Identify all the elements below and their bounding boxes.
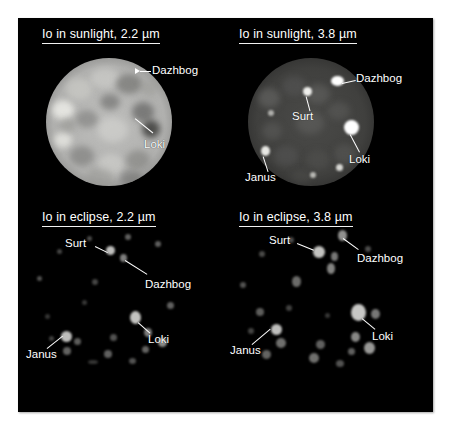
figure-root: Io in sunlight, 2.2 µm: [0, 0, 449, 430]
label-loki-eclipse-38: Loki: [372, 330, 393, 342]
label-loki-sunlight-38: Loki: [349, 153, 370, 165]
hotspot-janus-eclipse-38: [271, 324, 282, 335]
panel-title-eclipse-38: Io in eclipse, 3.8 µm: [239, 210, 353, 227]
panel-eclipse-38: Io in eclipse, 3.8 µm: [226, 208, 433, 412]
label-dazhbog-eclipse-22: Dazhbog: [145, 278, 191, 290]
panel-sunlight-38: Io in sunlight, 3.8 µm: [226, 18, 433, 208]
hotspot-surt-eclipse-22: [106, 246, 115, 255]
dazhbog-leader-eclipse-22: [125, 260, 148, 275]
panel-eclipse-22: Io in eclipse, 2.2 µm Su: [18, 208, 226, 412]
label-loki-sunlight-22: Loki: [144, 138, 165, 150]
janus-leader-eclipse-38: [252, 329, 271, 345]
dazhbog-leader-sunlight-22: [140, 71, 151, 72]
hotspot-loki-sunlight-38: [344, 120, 359, 135]
io-disk-sunlight-22: [46, 58, 172, 186]
hotspot-surt-sunlight-38: [303, 87, 312, 96]
hotspot-janus-sunlight-38: [261, 146, 270, 156]
label-surt-eclipse-38: Surt: [269, 234, 290, 246]
hotspot-dazhbog-sunlight-38: [331, 76, 344, 86]
label-janus-eclipse-38: Janus: [230, 344, 261, 356]
label-surt-sunlight-38: Surt: [292, 110, 313, 122]
panel-sunlight-22: Io in sunlight, 2.2 µm: [18, 18, 226, 208]
panel-title-sunlight-22: Io in sunlight, 2.2 µm: [42, 27, 160, 44]
figure-plate: Io in sunlight, 2.2 µm: [18, 18, 433, 412]
label-loki-eclipse-22: Loki: [148, 333, 169, 345]
dazhbog-leader-eclipse-38: [343, 238, 359, 250]
label-janus-eclipse-22: Janus: [26, 348, 57, 360]
label-janus-sunlight-38: Janus: [245, 171, 276, 183]
label-dazhbog-sunlight-22: Dazhbog: [152, 64, 198, 76]
label-surt-eclipse-22: Surt: [65, 237, 86, 249]
panel-title-sunlight-38: Io in sunlight, 3.8 µm: [239, 27, 357, 44]
label-dazhbog-sunlight-38: Dazhbog: [356, 72, 402, 84]
label-dazhbog-eclipse-38: Dazhbog: [357, 252, 403, 264]
hotspot-surt-eclipse-38: [313, 246, 325, 258]
panel-title-eclipse-22: Io in eclipse, 2.2 µm: [42, 210, 156, 227]
loki-leader-eclipse-38: [362, 318, 376, 330]
surt-leader-eclipse-38: [297, 243, 314, 251]
